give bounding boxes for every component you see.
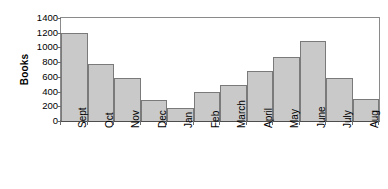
x-axis-tick-label-text: Feb bbox=[210, 111, 221, 128]
y-axis-tick-label: 1000 bbox=[37, 41, 58, 52]
y-axis-tick-label: 1200 bbox=[37, 26, 58, 37]
y-axis-tick-mark bbox=[57, 106, 61, 107]
x-axis-tick-label-text: Nov bbox=[130, 110, 141, 128]
y-axis-tick-labels: 0200400600800100012001400 bbox=[31, 11, 58, 126]
y-axis-tick-label: 600 bbox=[42, 70, 58, 81]
x-axis-tick-label-text: Dec bbox=[157, 110, 168, 128]
x-axis-tick-label-text: Aug bbox=[369, 110, 380, 128]
x-axis-tick-label-text: Sept bbox=[77, 107, 88, 128]
x-axis-tick-label-text: May bbox=[289, 109, 300, 128]
y-axis-tick-mark bbox=[57, 62, 61, 63]
plot-area bbox=[60, 17, 380, 122]
x-axis-tick-label-text: April bbox=[263, 108, 274, 128]
y-axis-title-text: Books bbox=[20, 53, 31, 85]
y-axis-tick-mark bbox=[57, 33, 61, 34]
y-axis-tick-label: 0 bbox=[53, 115, 58, 126]
bar-chart: Books 0200400600800100012001400 SeptOctN… bbox=[0, 0, 388, 189]
x-axis-tick-label-text: Jan bbox=[183, 112, 194, 128]
x-axis-tick-label-text: March bbox=[236, 100, 247, 128]
y-axis-tick-mark bbox=[57, 18, 61, 19]
y-axis-tick-mark bbox=[57, 92, 61, 93]
y-axis-tick-mark bbox=[57, 77, 61, 78]
y-axis-tick-label: 1400 bbox=[37, 12, 58, 23]
x-axis-tick-label-text: July bbox=[342, 110, 353, 128]
y-axis-tick-label: 400 bbox=[42, 85, 58, 96]
x-axis-tick-label-text: June bbox=[316, 106, 327, 128]
y-axis-tick-label: 200 bbox=[42, 100, 58, 111]
x-axis-tick-label-text: Oct bbox=[104, 112, 115, 128]
bar-series bbox=[61, 18, 379, 121]
y-axis-tick-mark bbox=[57, 47, 61, 48]
x-axis-tick-mark bbox=[60, 120, 61, 125]
x-axis-tick-labels: SeptOctNovDecJanFebMarchAprilMayJuneJuly… bbox=[60, 126, 380, 186]
y-axis-tick-label: 800 bbox=[42, 56, 58, 67]
